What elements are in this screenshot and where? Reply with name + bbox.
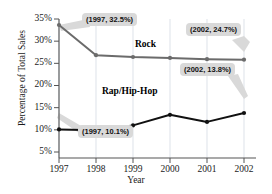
rock-point-2000 <box>168 56 172 60</box>
x-tick-label-2002: 2002 <box>226 165 262 175</box>
y-tick-label-10: 10% <box>26 125 52 135</box>
series-label-rock: Rock <box>135 39 156 49</box>
rap-point-2001 <box>205 120 209 124</box>
rock-point-2001 <box>205 57 209 61</box>
leader-rock-2002 <box>232 36 250 52</box>
y-tick-label-20: 20% <box>26 80 52 90</box>
x-tick-label-1997: 1997 <box>41 165 77 175</box>
x-tick-label-2000: 2000 <box>152 165 188 175</box>
callout-rap-hip-hop-2002: (2002, 13.8%) <box>180 63 235 76</box>
y-tick-label-5: 5% <box>26 147 52 157</box>
y-axis-ticks <box>54 19 59 152</box>
x-axis-title: Year <box>0 175 272 185</box>
x-tick-label-1999: 1999 <box>115 165 151 175</box>
y-axis-title: Percentage of Total Sales <box>17 8 27 148</box>
y-tick-label-35: 35% <box>26 14 52 24</box>
callout-rap-hip-hop-1997: (1997, 10.1%) <box>78 125 133 138</box>
rock-point-1998 <box>94 53 98 57</box>
y-tick-label-30: 30% <box>26 36 52 46</box>
leader-rap-2002 <box>228 74 248 99</box>
callout-rock-2002: (2002, 24.7%) <box>186 23 241 36</box>
line-chart-figure: 35% 30% 25% 20% 15% 10% 5% 1997 1998 199… <box>0 0 272 194</box>
rap-point-2000 <box>168 113 172 117</box>
rap-point-1997 <box>57 127 61 131</box>
y-tick-label-25: 25% <box>26 58 52 68</box>
y-tick-label-15: 15% <box>26 103 52 113</box>
rock-point-1999 <box>131 55 135 59</box>
rock-point-2002 <box>242 58 246 62</box>
callout-rock-1997: (1997, 32.5%) <box>82 13 137 26</box>
series-label-rap-hip-hop: Rap/Hip-Hop <box>102 86 157 96</box>
x-tick-label-1998: 1998 <box>78 165 114 175</box>
rap-point-2002 <box>242 111 246 115</box>
x-tick-label-2001: 2001 <box>189 165 225 175</box>
rock-point-1997 <box>57 23 61 27</box>
x-axis-ticks <box>59 158 244 163</box>
